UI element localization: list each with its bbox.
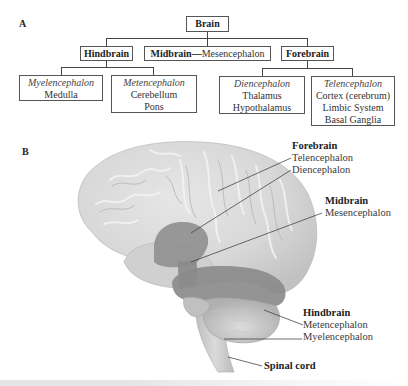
myelencephalon-label: Myelencephalon <box>303 331 373 343</box>
forebrain-heading: Forebrain <box>292 140 337 152</box>
telencephalon-label: Telencephalon <box>292 152 353 164</box>
midbrain-heading: Midbrain <box>325 195 368 207</box>
mesencephalon-label: Mesencephalon <box>325 207 391 219</box>
diencephalon-label: Diencephalon <box>292 164 350 176</box>
cropped-caption-fragment <box>0 380 408 386</box>
spinal-cord-label: Spinal cord <box>264 360 316 372</box>
metencephalon-label: Metencephalon <box>303 319 368 331</box>
hindbrain-heading: Hindbrain <box>303 307 350 319</box>
